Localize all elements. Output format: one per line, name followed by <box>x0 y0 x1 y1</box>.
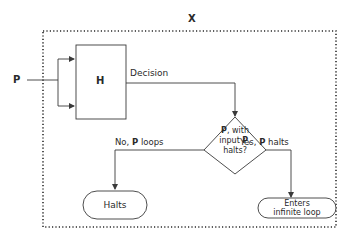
input-p-label: P <box>13 75 20 85</box>
machine-h-label: H <box>96 76 104 86</box>
yes-edge-pre: Yes, <box>240 137 259 147</box>
infinite-loop-label: Enters infinite loop <box>258 199 336 217</box>
decision-line3: halts? <box>205 146 265 156</box>
no-edge-pre: No, <box>115 137 132 147</box>
no-edge <box>115 150 204 189</box>
yes-edge <box>266 150 291 197</box>
no-edge-post: loops <box>138 137 163 147</box>
decision-line2-pre: input <box>219 136 242 145</box>
loop-line1: Enters <box>258 199 336 208</box>
yes-edge-label: Yes, P halts <box>240 137 289 147</box>
no-edge-label: No, P loops <box>115 137 164 147</box>
halts-label: Halts <box>83 200 147 210</box>
decision-line1: , with <box>227 126 249 135</box>
yes-edge-post: halts <box>265 137 288 147</box>
decision-edge-label: Decision <box>130 68 168 78</box>
machine-x-label: X <box>188 14 196 24</box>
decision-edge <box>126 83 235 116</box>
loop-line2: infinite loop <box>258 208 336 217</box>
